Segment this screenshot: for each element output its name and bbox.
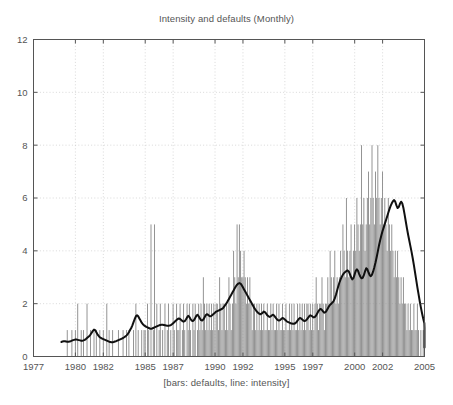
bar <box>305 330 306 356</box>
bar <box>99 330 100 356</box>
bar <box>369 224 370 356</box>
bar <box>398 277 399 356</box>
bar <box>138 330 139 356</box>
bar <box>417 304 418 357</box>
bar <box>345 277 346 356</box>
x-tick-label: 1992 <box>232 361 253 372</box>
bar <box>194 330 195 356</box>
bar <box>167 330 168 356</box>
bar <box>141 330 142 356</box>
bar <box>406 330 407 356</box>
bar <box>292 330 293 356</box>
bar <box>277 330 278 356</box>
bar <box>287 330 288 356</box>
bar <box>147 304 148 357</box>
bar <box>235 304 236 357</box>
bar <box>198 304 199 357</box>
bar <box>94 330 95 356</box>
bar <box>401 277 402 356</box>
bar <box>403 277 404 356</box>
bar <box>211 304 212 357</box>
bar <box>218 330 219 356</box>
bar <box>376 198 377 357</box>
bar <box>148 330 149 356</box>
bar <box>226 304 227 357</box>
bar <box>346 198 347 357</box>
bar <box>291 304 292 357</box>
bar <box>329 304 330 357</box>
bar <box>368 172 369 357</box>
bar <box>413 304 414 357</box>
bar <box>272 330 273 356</box>
bar <box>212 330 213 356</box>
y-tick-label: 12 <box>17 34 28 45</box>
bar <box>231 330 232 356</box>
x-tick-label: 1982 <box>93 361 114 372</box>
bar <box>303 330 304 356</box>
bar <box>220 304 221 357</box>
bar <box>408 304 409 357</box>
bar <box>192 304 193 357</box>
bar <box>209 304 210 357</box>
bar <box>392 251 393 357</box>
bar <box>109 330 110 356</box>
bar <box>228 277 229 356</box>
bar <box>162 330 163 356</box>
bar <box>247 277 248 356</box>
bar <box>383 224 384 356</box>
bar <box>268 330 269 356</box>
bar <box>353 251 354 357</box>
bar <box>160 304 161 357</box>
bar <box>159 330 160 356</box>
bar <box>302 304 303 357</box>
bar <box>390 251 391 357</box>
bar <box>187 304 188 357</box>
bar <box>188 330 189 356</box>
bar <box>372 145 373 356</box>
bar <box>354 224 355 356</box>
bar <box>360 224 361 356</box>
bar <box>221 330 222 356</box>
bar <box>310 304 311 357</box>
bar <box>362 224 363 356</box>
bar <box>361 145 362 356</box>
bar <box>135 304 136 357</box>
bar <box>239 224 240 356</box>
bar <box>341 277 342 356</box>
bar <box>352 277 353 356</box>
bar <box>233 251 234 357</box>
bar <box>394 277 395 356</box>
x-tick-label: 1977 <box>23 361 44 372</box>
bar <box>208 330 209 356</box>
bar <box>344 251 345 357</box>
bar <box>309 330 310 356</box>
bar <box>246 304 247 357</box>
bar <box>399 304 400 357</box>
x-tick-label: 1997 <box>302 361 323 372</box>
bar <box>331 277 332 356</box>
bar <box>386 224 387 356</box>
bar <box>133 330 134 356</box>
bar <box>274 330 275 356</box>
y-tick-label: 8 <box>22 140 27 151</box>
bar <box>294 304 295 357</box>
bar <box>259 304 260 357</box>
bar <box>260 330 261 356</box>
bar <box>416 330 417 356</box>
bar <box>276 304 277 357</box>
x-tick-label: 1990 <box>204 361 225 372</box>
bar <box>205 330 206 356</box>
bar <box>176 304 177 357</box>
bar <box>396 277 397 356</box>
bar <box>348 277 349 356</box>
bar <box>395 251 396 357</box>
bar <box>418 330 419 356</box>
bar <box>223 304 224 357</box>
bar <box>83 330 84 356</box>
bar <box>265 330 266 356</box>
bar <box>332 304 333 357</box>
plot-area: 0246810121977198019821985198719901992199… <box>0 0 453 405</box>
bar <box>254 304 255 357</box>
bar <box>318 330 319 356</box>
bar <box>410 304 411 357</box>
